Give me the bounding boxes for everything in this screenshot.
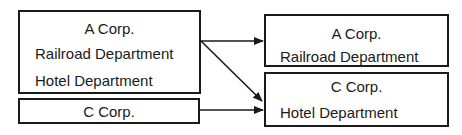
connector-arrows: [0, 0, 462, 135]
arrow-a-to-c: [201, 41, 262, 101]
